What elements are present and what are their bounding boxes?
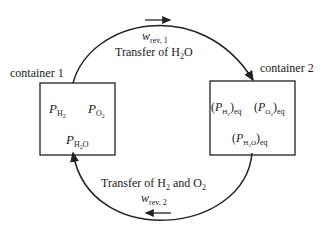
container-1-label: container 1 [10, 66, 64, 80]
bottom-work-label: wrev, 2 [141, 191, 167, 207]
reversible-work-diagram: container 1 container 2 PH2 PO2 PH2O (PH… [0, 0, 331, 236]
p-h2-eq: (PH2)eq [211, 100, 241, 117]
p-h2o-eq: (PH2O)eq [232, 131, 268, 148]
bottom-transfer-label: Transfer of H2 and O2 [101, 176, 206, 192]
container-2-label: container 2 [260, 61, 314, 75]
p-h2: PH2 [48, 101, 66, 119]
p-o2-eq: (PO2)eq [254, 100, 284, 117]
p-h2o: PH2O [65, 132, 89, 150]
top-transfer-label: Transfer of H2O [115, 45, 193, 61]
p-o2: PO2 [87, 101, 105, 119]
top-work-label: wrev, 1 [142, 29, 168, 45]
